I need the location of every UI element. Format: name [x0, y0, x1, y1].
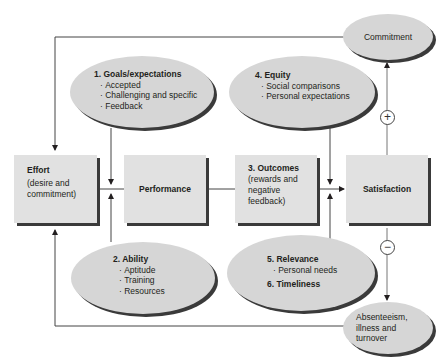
outcomes-subtitle: feedback) [248, 196, 317, 207]
goals-item: Challenging and specific [94, 90, 214, 101]
satisfaction-title: Satisfaction [363, 184, 411, 195]
ability-title: 2. Ability [113, 254, 215, 265]
ability-ellipse: 2. Ability Aptitude Training Resources [71, 242, 215, 314]
effort-box: Effort (desire and commitment) [14, 155, 97, 223]
absenteeism-line: illness and [356, 323, 433, 334]
negative-sign-icon: − [380, 240, 395, 255]
goals-ellipse: 1. Goals/expectations Accepted Challengi… [70, 56, 214, 128]
positive-sign-icon: + [380, 110, 395, 125]
relevance-item: Personal needs [267, 265, 375, 276]
timeliness-title: 6. Timeliness [267, 279, 375, 290]
commitment-ellipse: Commitment [343, 14, 433, 60]
outcomes-title: 3. Outcomes [248, 163, 317, 174]
satisfaction-box: Satisfaction [346, 155, 428, 223]
effort-title: Effort [27, 165, 97, 176]
outcomes-subtitle: negative [248, 185, 317, 196]
relevance-title: 5. Relevance [267, 254, 375, 265]
goals-item: Feedback [94, 101, 214, 112]
goals-title: 1. Goals/expectations [94, 69, 214, 80]
effort-subtitle: commitment) [27, 189, 97, 200]
ability-item: Aptitude [113, 265, 215, 276]
performance-title: Performance [139, 184, 191, 195]
equity-title: 4. Equity [255, 70, 375, 81]
commitment-label: Commitment [364, 32, 412, 43]
performance-box: Performance [124, 155, 206, 223]
equity-item: Personal expectations [255, 91, 375, 102]
absenteeism-line: Absenteeism, [356, 312, 433, 323]
goals-item: Accepted [94, 80, 214, 91]
ability-item: Training [113, 275, 215, 286]
outcomes-subtitle: (rewards and [248, 174, 317, 185]
ability-item: Resources [113, 286, 215, 297]
absenteeism-line: turnover [356, 333, 433, 344]
absenteeism-ellipse: Absenteeism, illness and turnover [343, 302, 433, 354]
outcomes-box: 3. Outcomes (rewards and negative feedba… [235, 155, 317, 223]
equity-ellipse: 4. Equity Social comparisons Personal ex… [229, 56, 375, 128]
effort-subtitle: (desire and [27, 178, 97, 189]
relevance-ellipse: 5. Relevance Personal needs 6. Timelines… [227, 235, 375, 311]
equity-item: Social comparisons [255, 81, 375, 92]
